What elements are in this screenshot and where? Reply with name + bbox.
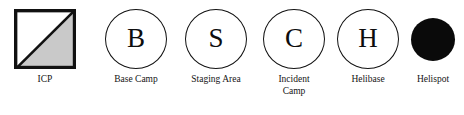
- legend-item-helibase[interactable]: H Helibase: [330, 6, 406, 86]
- legend-strip: ICP B Base Camp S Staging Area C In: [0, 0, 464, 115]
- icp-square-half-shaded-icon: [14, 9, 76, 69]
- legend-label-staging-area: Staging Area: [173, 74, 259, 86]
- staging-area-circle-icon: S: [185, 9, 247, 69]
- legend-item-staging-area[interactable]: S Staging Area: [173, 6, 259, 86]
- symbol-slot-incident-camp: C: [255, 6, 333, 72]
- symbol-slot-helibase: H: [330, 6, 406, 72]
- legend-item-helispot[interactable]: Helispot: [404, 6, 462, 86]
- helibase-circle-icon: H: [337, 9, 399, 69]
- legend-label-helibase: Helibase: [330, 74, 406, 86]
- legend-item-incident-camp[interactable]: C Incident Camp: [255, 6, 333, 97]
- symbol-slot-staging-area: S: [173, 6, 259, 72]
- helispot-filled-circle-icon: [411, 18, 455, 61]
- circle-glyph-c: C: [285, 25, 303, 52]
- legend-label-icp: ICP: [6, 74, 84, 86]
- base-camp-circle-icon: B: [105, 9, 167, 69]
- legend-label-helispot: Helispot: [404, 74, 462, 86]
- legend-item-base-camp[interactable]: B Base Camp: [95, 6, 177, 86]
- circle-glyph-s: S: [208, 25, 223, 52]
- symbol-slot-icp: [6, 6, 84, 72]
- symbol-slot-helispot: [404, 6, 462, 72]
- circle-glyph-b: B: [127, 25, 145, 52]
- legend-label-base-camp: Base Camp: [95, 74, 177, 86]
- incident-camp-circle-icon: C: [263, 9, 325, 69]
- circle-glyph-h: H: [358, 25, 378, 52]
- legend-item-icp[interactable]: ICP: [6, 6, 84, 86]
- symbol-slot-base-camp: B: [95, 6, 177, 72]
- legend-label-incident-camp: Incident Camp: [255, 74, 333, 97]
